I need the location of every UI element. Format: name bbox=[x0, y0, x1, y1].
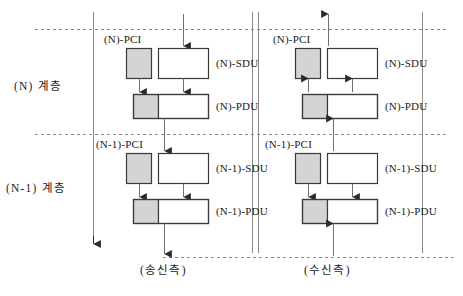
receive-n1-pdu-sdu-part bbox=[328, 200, 378, 224]
receive-n1-pdu-label: (N-1)-PDU bbox=[385, 205, 437, 218]
send-n-sdu-label: (N)-SDU bbox=[216, 57, 258, 70]
send-n-pdu-label: (N)-PDU bbox=[216, 100, 258, 113]
receive-n-sdu-label: (N)-SDU bbox=[385, 57, 427, 70]
receive-n-pdu-pci-part bbox=[303, 95, 328, 119]
receive-n1-sdu-label: (N-1)-SDU bbox=[385, 162, 437, 175]
receive-n1-sdu-box bbox=[328, 154, 378, 184]
layer-label-n-1: (N-1) 계층 bbox=[6, 182, 66, 195]
send-n-pci-box bbox=[127, 49, 152, 79]
protocol-layering-diagram: (N) 계층 (N-1) 계층 (N)-PCI (N)-SDU (N)-PDU … bbox=[0, 0, 463, 296]
receive-n-pci-label: (N)-PCI bbox=[273, 33, 310, 46]
send-n-pdu-pci-part bbox=[134, 95, 159, 119]
receive-n1-pci-label: (N-1)-PCI bbox=[265, 138, 312, 151]
send-n-pdu-sdu-part bbox=[159, 95, 209, 119]
send-n1-sdu-label: (N-1)-SDU bbox=[216, 162, 268, 175]
send-n-sdu-box bbox=[159, 49, 209, 79]
send-n1-pci-box bbox=[127, 154, 152, 184]
send-n1-pdu-sdu-part bbox=[159, 200, 209, 224]
send-side-caption: (송신측) bbox=[140, 264, 187, 277]
receive-side-caption: (수신측) bbox=[304, 264, 351, 277]
receive-n-pdu-label: (N)-PDU bbox=[385, 100, 427, 113]
receive-n1-pci-box bbox=[296, 154, 321, 184]
send-n1-pdu-pci-part bbox=[134, 200, 159, 224]
layer-label-n: (N) 계층 bbox=[14, 80, 62, 93]
receive-n-sdu-box bbox=[328, 49, 378, 79]
receive-n1-pdu-pci-part bbox=[303, 200, 328, 224]
send-n1-pci-label: (N-1)-PCI bbox=[96, 138, 143, 151]
receive-n-pdu-sdu-part bbox=[328, 95, 378, 119]
send-n1-sdu-box bbox=[159, 154, 209, 184]
send-n1-pdu-label: (N-1)-PDU bbox=[216, 205, 268, 218]
diagram-canvas bbox=[0, 0, 463, 296]
receive-n-pci-box bbox=[296, 49, 321, 79]
send-n-pci-label: (N)-PCI bbox=[104, 33, 141, 46]
